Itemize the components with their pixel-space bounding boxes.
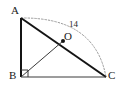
segment-bo bbox=[21, 41, 63, 77]
segment-ac bbox=[21, 18, 106, 77]
vertex-label-b: B bbox=[9, 70, 16, 81]
vertex-label-o: O bbox=[64, 31, 72, 42]
geometry-figure: A B C O 14 bbox=[0, 0, 121, 94]
vertex-label-c: C bbox=[108, 70, 115, 81]
arc-measure-label: 14 bbox=[69, 20, 78, 29]
vertex-label-a: A bbox=[11, 5, 19, 16]
